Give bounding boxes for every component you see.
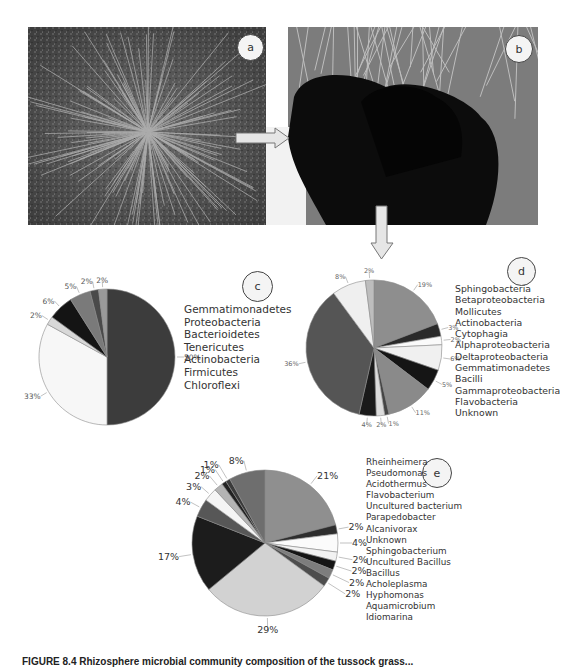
pie-slice-label: 5% xyxy=(64,282,76,291)
legend-c: Gemmatimonadetes Proteobacteria Bacterio… xyxy=(184,303,291,391)
pie-slice-label: 2% xyxy=(364,267,374,275)
legend-e-item: Bacillus xyxy=(366,568,462,579)
legend-e-item: Aquamicrobium xyxy=(366,601,462,612)
pie-slice-label: 4% xyxy=(175,496,190,507)
pie-slice xyxy=(374,280,438,348)
legend-d-item: Cytophagia xyxy=(455,328,560,339)
legend-e-item: Parapedobacter xyxy=(366,512,462,523)
pie-slice xyxy=(230,470,265,543)
pie-slice-label: 1% xyxy=(204,459,219,470)
legend-c-item: Firmicutes xyxy=(184,366,291,379)
pie-slice xyxy=(209,543,324,616)
legend-e-item: Pseudomonas xyxy=(366,468,462,479)
legend-c-item: Gemmatimonadetes xyxy=(184,303,291,316)
legend-e-item: Hyphomonas xyxy=(366,590,462,601)
pie-slice-label: 2% xyxy=(349,521,364,532)
grass-photo-illustration xyxy=(28,27,266,225)
root-photo-illustration xyxy=(266,27,538,225)
pie-slice-label: 33% xyxy=(24,392,41,401)
legend-e-item: Uncultured bacterium xyxy=(366,501,462,512)
legend-d-item: Flavobacteria xyxy=(455,396,560,407)
pie-slice xyxy=(90,290,107,357)
photo-tussock-grass xyxy=(28,27,266,225)
pie-slice xyxy=(71,291,107,357)
pie-slice-label: 17% xyxy=(158,551,179,562)
pie-slice xyxy=(265,525,337,543)
pie-slice-label: 2% xyxy=(345,588,360,599)
pie-slice-label: 11% xyxy=(416,409,430,417)
pie-slice-label: 2% xyxy=(194,470,209,481)
legend-d: Sphingobacteria Betaproteobacteria Molli… xyxy=(455,283,560,419)
pie-slice-label: 19% xyxy=(418,281,432,289)
legend-c-item: Tenericutes xyxy=(184,341,291,354)
pie-slice xyxy=(222,481,265,543)
legend-e-item: Rheinheimera xyxy=(366,457,462,468)
photo-root-ball xyxy=(266,27,538,225)
legend-e-item: Flavobacterium xyxy=(366,490,462,501)
panel-label-c: c xyxy=(242,271,273,302)
legend-d-item: Deltaproteobacteria xyxy=(455,351,560,362)
pie-slice xyxy=(226,479,265,543)
pie-slice xyxy=(265,534,338,552)
pie-slice-label: 21% xyxy=(317,470,338,481)
pie-slice xyxy=(265,543,329,586)
pie-slice xyxy=(107,289,175,425)
legend-d-item: Gemmatimonadetes xyxy=(455,362,560,373)
legend-e-item: Alcanivorax xyxy=(366,524,462,535)
pie-slice xyxy=(374,336,442,348)
pie-slice xyxy=(374,324,441,348)
pie-slice-label: 6% xyxy=(42,297,54,306)
pie-slice-label: 4% xyxy=(352,537,367,548)
right-arrow-icon xyxy=(235,127,291,149)
pie-slice xyxy=(359,348,376,416)
pie-slice xyxy=(265,543,337,561)
legend-e-item: Acidothermus xyxy=(366,479,462,490)
legend-c-item: Actinobacteria xyxy=(184,353,291,366)
panel-label-a: a xyxy=(237,34,264,61)
pie-slice xyxy=(192,516,265,589)
panel-label-b-text: b xyxy=(516,43,523,56)
pie-slice xyxy=(265,470,336,543)
pie-slice-label: 2% xyxy=(352,565,367,576)
pie-slice-label: 2% xyxy=(349,577,364,588)
pie-slice-label: 8% xyxy=(229,455,244,466)
pie-slice xyxy=(39,324,107,425)
pie-slice-label: 5% xyxy=(442,381,452,389)
pie-slice-label: 1% xyxy=(389,420,399,428)
pie-slice-label: 2% xyxy=(96,276,108,285)
pie-slice xyxy=(52,300,107,357)
panel-label-d: d xyxy=(507,257,536,286)
pie-slice xyxy=(374,348,438,389)
legend-d-item: Mollicutes xyxy=(455,306,560,317)
legend-e-item: Sphingobacterium xyxy=(366,546,462,557)
legend-e-item: Unknown xyxy=(366,535,462,546)
legend-d-item: Sphingobacteria xyxy=(455,283,560,294)
legend-e-item: Acholeplasma xyxy=(366,579,462,590)
legend-d-item: Alphaproteobacteria xyxy=(455,339,560,350)
pie-slice xyxy=(265,543,336,570)
legend-c-item: Bacterioidetes xyxy=(184,328,291,341)
pie-slice xyxy=(374,348,428,414)
pie-slice xyxy=(374,348,385,416)
panel-label-a-text: a xyxy=(247,41,254,54)
pie-slice xyxy=(374,345,442,370)
legend-e: Rheinheimera Pseudomonas Acidothermus Fl… xyxy=(366,457,462,623)
figure-caption: FIGURE 8.4 Rhizosphere microbial communi… xyxy=(22,656,413,667)
panel-label-d-text: d xyxy=(518,265,525,278)
pie-slice xyxy=(365,280,374,348)
pie-slice-label: 2% xyxy=(81,277,93,286)
pie-slice xyxy=(215,484,265,543)
pie-slice xyxy=(374,348,389,415)
pie-slice xyxy=(47,317,107,357)
legend-d-item: Gammaproteobacteria xyxy=(455,385,560,396)
pie-slice xyxy=(197,500,265,543)
legend-c-item: Chloroflexi xyxy=(184,379,291,392)
pie-slice xyxy=(265,543,333,578)
down-arrow-icon xyxy=(370,205,394,261)
legend-c-item: Proteobacteria xyxy=(184,316,291,329)
panel-label-c-text: c xyxy=(254,280,260,293)
pie-slice-label: 2% xyxy=(376,421,386,429)
legend-e-item: Uncultured Bacillus xyxy=(366,557,462,568)
legend-d-item: Unknown xyxy=(455,407,560,418)
pie-slice xyxy=(306,293,374,414)
